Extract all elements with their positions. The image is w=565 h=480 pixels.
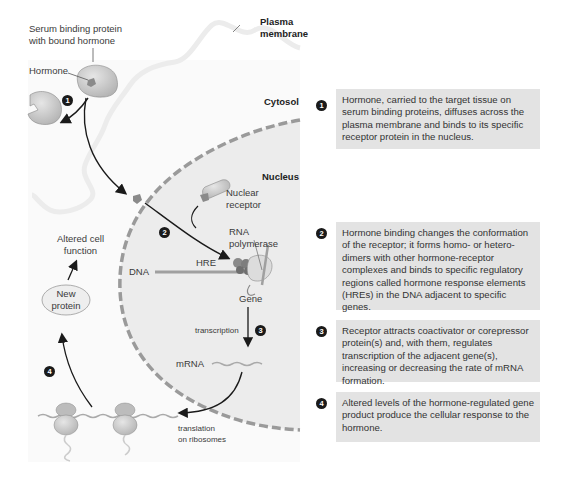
- diagram-step-marker-4: 4: [44, 366, 55, 377]
- step-marker-4: 4: [316, 398, 327, 409]
- label-plasma-membrane: Plasma membrane: [260, 16, 308, 39]
- label-mrna: mRNA: [176, 358, 204, 370]
- diagram-step-marker-3: 3: [255, 325, 266, 336]
- label-cytosol: Cytosol: [264, 96, 299, 108]
- serum-binding-protein: [77, 65, 117, 97]
- step-box-4: Altered levels of the hormone-regulated …: [336, 392, 540, 442]
- label-translation: translation on ribosomes: [178, 424, 226, 445]
- label-serum-binding-protein: Serum binding protein with bound hormone: [29, 23, 122, 46]
- label-nucleus: Nucleus: [262, 171, 299, 183]
- label-rna-polymerase: RNA polymerase: [229, 226, 278, 249]
- diagram-step-marker-1: 1: [62, 95, 73, 106]
- step-box-3: Receptor attracts coactivator or corepre…: [336, 320, 540, 382]
- label-transcription: transcription: [195, 325, 239, 337]
- label-hre: HRE: [196, 257, 216, 269]
- step-marker-1: 1: [316, 100, 327, 111]
- step-box-1: Hormone, carried to the target tissue on…: [336, 89, 540, 149]
- diagram-step-marker-2: 2: [159, 227, 170, 238]
- label-gene: Gene: [239, 293, 262, 305]
- label-nuclear-receptor: Nuclear receptor: [226, 187, 261, 210]
- label-hormone: Hormone: [29, 65, 68, 77]
- step-marker-2: 2: [316, 228, 327, 239]
- label-new-protein: New protein: [48, 288, 84, 311]
- step-marker-3: 3: [316, 326, 327, 337]
- label-altered-cell-function: Altered cell function: [57, 233, 104, 256]
- label-dna: DNA: [129, 266, 149, 278]
- step-box-2: Hormone binding changes the conformation…: [336, 222, 540, 310]
